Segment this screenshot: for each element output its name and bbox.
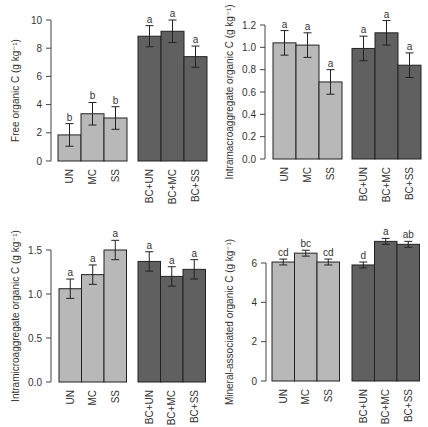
bar — [273, 43, 296, 159]
chart-svg: 0.00.20.40.60.81.01.2Intramacroaggregate… — [214, 0, 428, 214]
significance-letter: ab — [403, 229, 415, 240]
y-tick-label: 2 — [251, 336, 257, 347]
significance-letter: b — [113, 95, 119, 106]
significance-letter: a — [67, 267, 73, 278]
x-tick-label: BC+UN — [358, 389, 369, 423]
significance-letter: a — [328, 58, 334, 69]
x-tick-label: UN — [65, 390, 76, 404]
y-axis-label: Mineral-associated organic C (g kg⁻¹) — [224, 239, 235, 405]
bar — [104, 250, 127, 382]
x-tick-label: UN — [278, 389, 289, 403]
x-tick-label: SS — [323, 389, 334, 403]
bar — [161, 31, 184, 161]
x-tick-label: BC+UN — [358, 167, 369, 201]
bar — [82, 275, 105, 382]
chart-mineral-associated-organic-c: 0246Mineral-associated organic C (g kg⁻¹… — [214, 214, 428, 427]
x-tick-label: MC — [87, 169, 98, 185]
significance-letter: a — [383, 226, 389, 237]
bar — [296, 45, 319, 159]
y-tick-label: 2 — [36, 127, 42, 138]
y-tick-label: 0.5 — [28, 333, 42, 344]
x-tick-label: BC+SS — [189, 390, 200, 423]
bar — [272, 262, 295, 381]
y-tick-label: 1.0 — [242, 42, 256, 53]
significance-letter: a — [147, 14, 153, 25]
y-tick-label: 0.0 — [28, 377, 42, 388]
bar — [184, 57, 207, 161]
bar — [397, 244, 420, 381]
y-tick-label: 10 — [31, 15, 43, 26]
significance-letter: a — [193, 34, 199, 45]
significance-letter: a — [169, 255, 175, 266]
significance-letter: a — [305, 21, 311, 32]
y-tick-label: 6 — [251, 258, 257, 269]
x-tick-label: MC — [300, 389, 311, 405]
significance-letter: a — [282, 19, 288, 30]
bar — [183, 269, 206, 382]
y-tick-label: 1.2 — [242, 20, 256, 31]
y-tick-label: 1.0 — [28, 289, 42, 300]
bar — [59, 289, 82, 382]
bar — [138, 36, 161, 161]
significance-letter: a — [407, 41, 413, 52]
y-tick-label: 4 — [36, 99, 42, 110]
y-tick-label: 0.8 — [242, 64, 256, 75]
x-tick-label: BC+MC — [381, 167, 392, 202]
y-tick-label: 0.6 — [242, 87, 256, 98]
bar — [352, 48, 375, 159]
bar — [375, 241, 398, 381]
x-tick-label: MC — [302, 167, 313, 183]
bar — [375, 33, 398, 159]
bar — [138, 261, 161, 382]
significance-letter: b — [90, 90, 96, 101]
chart-svg: 0246Mineral-associated organic C (g kg⁻¹… — [214, 214, 428, 427]
x-tick-label: UN — [279, 167, 290, 181]
y-tick-label: 4 — [251, 297, 257, 308]
significance-letter: cd — [323, 247, 334, 258]
x-tick-label: SS — [110, 169, 121, 183]
y-tick-label: 0 — [36, 156, 42, 167]
bar — [317, 262, 340, 381]
x-tick-label: SS — [325, 167, 336, 181]
significance-letter: a — [191, 248, 197, 259]
x-tick-label: BC+SS — [190, 169, 201, 202]
y-tick-label: 8 — [36, 43, 42, 54]
significance-letter: bc — [300, 238, 311, 249]
x-tick-label: MC — [87, 390, 98, 406]
y-tick-label: 0.4 — [242, 109, 256, 120]
x-tick-label: BC+UN — [144, 169, 155, 203]
chart-intramacroaggregate-organic-c: 0.00.20.40.60.81.01.2Intramacroaggregate… — [214, 0, 428, 214]
significance-letter: cd — [278, 247, 289, 258]
x-tick-label: BC+SS — [403, 389, 414, 422]
x-tick-label: BC+MC — [167, 169, 178, 204]
bar — [398, 65, 421, 159]
bar — [352, 265, 375, 381]
x-tick-label: BC+MC — [166, 390, 177, 425]
significance-letter: b — [67, 112, 73, 123]
significance-letter: a — [384, 9, 390, 20]
bar — [295, 253, 318, 381]
y-tick-label: 0.2 — [242, 131, 256, 142]
x-tick-label: SS — [110, 390, 121, 404]
chart-svg: 0.00.51.01.5Intramicroaggregate organic … — [0, 214, 214, 427]
bar — [161, 276, 184, 382]
chart-free-organic-c: 0246810Free organic C (g kg⁻¹)bUNbMCbSSa… — [0, 0, 214, 214]
significance-letter: a — [90, 253, 96, 264]
significance-letter: a — [112, 228, 118, 239]
significance-letter: a — [170, 8, 176, 19]
x-tick-label: BC+MC — [380, 389, 391, 424]
y-tick-label: 0 — [251, 376, 257, 387]
y-tick-label: 0.0 — [242, 154, 256, 165]
y-tick-label: 1.5 — [28, 245, 42, 256]
chart-intramicroaggregate-organic-c: 0.00.51.01.5Intramicroaggregate organic … — [0, 214, 214, 427]
significance-letter: d — [360, 250, 366, 261]
x-tick-label: BC+SS — [404, 167, 415, 200]
significance-letter: a — [146, 240, 152, 251]
x-tick-label: UN — [64, 169, 75, 183]
y-tick-label: 6 — [36, 71, 42, 82]
y-axis-label: Free organic C (g kg⁻¹) — [10, 39, 21, 142]
chart-svg: 0246810Free organic C (g kg⁻¹)bUNbMCbSSa… — [0, 0, 214, 214]
y-axis-label: Intramacroaggregate organic C (g kg⁻¹) — [224, 4, 235, 179]
y-axis-label: Intramicroaggregate organic C (g kg⁻¹) — [10, 230, 21, 402]
x-tick-label: BC+UN — [144, 390, 155, 424]
